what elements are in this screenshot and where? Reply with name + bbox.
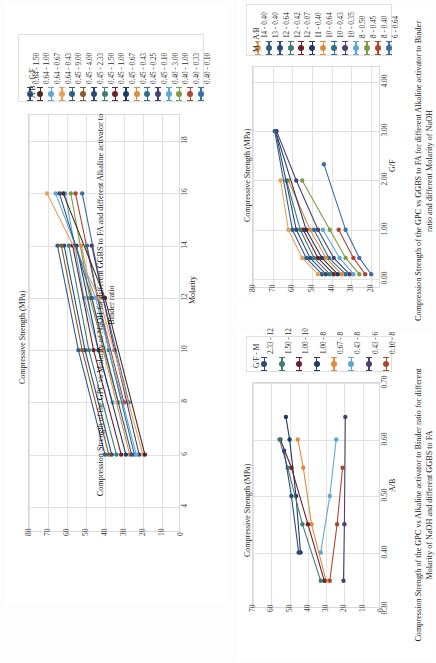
data-point (343, 228, 347, 232)
legend-title-chart-2: M - A/B (252, 27, 261, 52)
data-point (134, 452, 138, 456)
data-point (347, 272, 351, 276)
data-point (316, 256, 320, 260)
data-point (61, 191, 65, 195)
x-axis-title-chart-3: A/B (388, 479, 397, 492)
legend-marker (174, 87, 185, 101)
legend-label: 13 - 0.40 (272, 12, 280, 38)
legend-label: 0.45 - 2.33 (97, 53, 105, 84)
legend-label: 0.45 - 0.25 (150, 53, 158, 84)
legend-chart-1: 0.40 - 0.100.40 - 0.330.40 - 1.000.40 - … (18, 34, 204, 102)
data-point (300, 178, 304, 182)
x-tick-label: 4.00 (380, 74, 389, 87)
legend-item[interactable]: 1.50 - 12 (273, 337, 290, 373)
legend-marker (290, 357, 307, 371)
data-point (316, 228, 320, 232)
x-axis-title-chart-2: G/F (388, 160, 397, 172)
legend-label: 8 - 0.40 (381, 16, 389, 38)
legend-label: 6 - 0.64 (392, 16, 400, 38)
legend-label: 0.43 - 8 (354, 332, 362, 354)
legend-label: 1.00 - 10 (302, 328, 310, 354)
y-tick-label: 80 (24, 529, 33, 536)
legend-label: 14 - 0.40 (261, 12, 269, 38)
data-point (301, 466, 305, 470)
plot-area-chart-2 (252, 66, 380, 288)
data-point (282, 449, 286, 453)
legend-label: 0.10 - 8 (389, 332, 397, 354)
legend-marker (274, 41, 285, 55)
data-point (287, 437, 291, 441)
legend-marker (318, 41, 329, 55)
legend-marker (351, 41, 362, 55)
legend-marker (195, 87, 206, 101)
legend-label: 0.64 - 0.43 (65, 53, 73, 84)
data-point (290, 228, 294, 232)
data-point (328, 272, 332, 276)
legend-label: 0.40 - 1.00 (182, 53, 190, 84)
legend-marker (88, 87, 99, 101)
data-point (334, 437, 338, 441)
data-point (124, 452, 128, 456)
data-point (45, 191, 49, 195)
legend-label: 0.43 - 6 (372, 332, 380, 354)
data-point (332, 256, 336, 260)
data-point (357, 256, 361, 260)
legend-marker (343, 357, 360, 371)
data-point (294, 178, 298, 182)
series-layer (253, 67, 380, 288)
legend-label: 10 - 0.64 (326, 12, 334, 38)
data-point (308, 256, 312, 260)
data-point (55, 243, 59, 247)
x-tick-label: 0.60 (380, 432, 389, 445)
figure-chart-3: 0.10 - 80.43 - 60.43 - 80.67 - 81.00 - 8… (238, 332, 434, 660)
y-tick-label: 80 (248, 285, 257, 292)
data-point (339, 272, 343, 276)
legend-marker (78, 87, 89, 101)
y-tick-label: 40 (302, 605, 311, 612)
legend-marker (67, 87, 78, 101)
legend-item[interactable]: 0.43 - 8 (343, 337, 360, 373)
data-point (80, 191, 84, 195)
legend-item[interactable]: 1.00 - 8 (308, 337, 325, 373)
data-point (308, 228, 312, 232)
legend-label: 0.64 - 1.00 (43, 53, 51, 84)
x-tick-label: 18 (180, 136, 189, 143)
x-tick-label: 3.00 (380, 124, 389, 137)
x-tick-label: 0.70 (380, 376, 389, 389)
x-tick-label: 14 (180, 241, 189, 248)
figure-page: 0.40 - 0.100.40 - 0.330.40 - 1.000.40 - … (0, 0, 436, 663)
legend-marker (340, 41, 351, 55)
data-point (298, 228, 302, 232)
data-point (343, 256, 347, 260)
legend-chart-3: 0.10 - 80.43 - 60.43 - 80.67 - 81.00 - 8… (246, 336, 392, 372)
legend-marker (142, 87, 153, 101)
legend-label: 12 - 0.42 (294, 12, 302, 38)
legend-marker (121, 87, 132, 101)
y-tick-label: 0 (176, 532, 185, 536)
data-point (79, 243, 83, 247)
legend-item[interactable]: 0.43 - 6 (360, 337, 377, 373)
data-point (337, 228, 341, 232)
legend-marker (99, 87, 110, 101)
legend-label: 0.64 - 0.67 (54, 53, 62, 84)
series-layer (253, 383, 380, 608)
x-tick-label: 8 (180, 400, 189, 404)
legend-item[interactable]: 1.00 - 10 (290, 337, 307, 373)
x-tick-label: 10 (180, 345, 189, 352)
legend-label: 10 - 0.35 (348, 12, 356, 38)
data-point (340, 466, 344, 470)
legend-label: 11 - 0.40 (315, 13, 323, 39)
data-point (69, 191, 73, 195)
y-tick-label: 10 (357, 605, 366, 612)
y-tick-label: 30 (321, 605, 330, 612)
caption-chart-3: Compression Strength of the GPC vs Alkal… (413, 355, 435, 655)
legend-marker (185, 87, 196, 101)
data-point (341, 579, 345, 583)
legend-label: 0.40 - 0.33 (193, 53, 201, 84)
data-point (73, 191, 77, 195)
data-point (304, 256, 308, 260)
data-point (289, 494, 293, 498)
legend-label: 0.45 - 4.00 (86, 53, 94, 84)
x-tick-label: 2.00 (380, 173, 389, 186)
y-tick-label: 60 (266, 605, 275, 612)
